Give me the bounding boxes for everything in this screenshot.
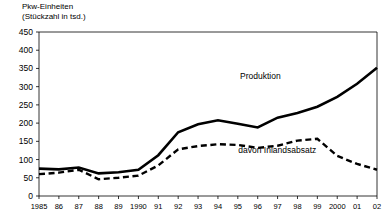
x-tick-label: 95 [234, 202, 242, 211]
y-axis-tick-group: 050100150200250300350400450 [19, 27, 39, 201]
series-line-2 [39, 139, 377, 179]
line-chart-plot: 050100150200250300350400450 198586878889… [0, 0, 392, 221]
y-tick-label: 250 [19, 100, 33, 110]
x-tick-label: 86 [55, 202, 63, 211]
x-tick-label: 02 [373, 202, 381, 211]
y-axis-title-line2: (Stückzahl in tsd.) [22, 12, 86, 21]
x-tick-label: 91 [154, 202, 162, 211]
y-tick-label: 200 [19, 118, 33, 128]
x-tick-label: 93 [194, 202, 202, 211]
y-tick-label: 300 [19, 82, 33, 92]
y-tick-label: 100 [19, 155, 33, 165]
y-tick-label: 50 [24, 173, 34, 183]
x-tick-label: 97 [273, 202, 281, 211]
x-tick-label: 89 [114, 202, 122, 211]
x-tick-label: 88 [94, 202, 102, 211]
y-axis-title-line1: Pkw-Einheiten [22, 2, 73, 11]
x-axis-tick-group: 1985868788891990919293949596979899200001… [31, 196, 382, 211]
x-tick-label: 94 [214, 202, 222, 211]
y-tick-label: 150 [19, 136, 33, 146]
series-line-1 [39, 68, 377, 174]
series-label-2: davon Inlandsabsatz [238, 145, 316, 155]
data-series-group [39, 68, 377, 180]
x-tick-label: 1985 [31, 202, 48, 211]
x-tick-label: 92 [174, 202, 182, 211]
y-tick-label: 0 [28, 191, 33, 201]
x-tick-label: 98 [293, 202, 301, 211]
y-tick-label: 400 [19, 45, 33, 55]
x-tick-label: 01 [353, 202, 361, 211]
x-tick-label: 96 [254, 202, 262, 211]
y-axis-title: Pkw-Einheiten (Stückzahl in tsd.) [22, 2, 86, 21]
x-tick-label: 87 [75, 202, 83, 211]
x-tick-label: 1990 [130, 202, 147, 211]
y-tick-label: 350 [19, 63, 33, 73]
y-tick-label: 450 [19, 27, 33, 37]
x-tick-label: 2000 [329, 202, 346, 211]
series-label-1: Produktion [240, 71, 281, 81]
series-annotation-group: Produktiondavon Inlandsabsatz [238, 71, 316, 155]
chart-container: Pkw-Einheiten (Stückzahl in tsd.) 050100… [0, 0, 392, 221]
x-tick-label: 99 [313, 202, 321, 211]
